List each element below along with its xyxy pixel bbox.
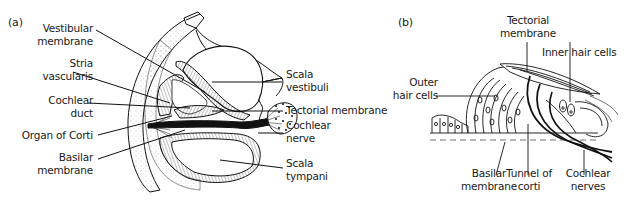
label-tectorial-membrane-a: Tectorial membrane [286,104,387,117]
organ-of-corti-drawing [430,42,618,175]
label-scala-tympani: Scala tympani [286,157,328,183]
label-cochlear-nerves: Cochlear nerves [560,167,616,193]
label-scala-vestibuli: Scala vestibuli [286,68,329,94]
label-stria-vascularis: Stria vascularis [20,57,93,83]
panel-a-tag: (a) [8,16,23,29]
cochlea-figure: (a) Vestibular membrane Stria vascularis… [0,0,627,202]
label-inner-hair-cells: Inner hair cells [542,46,617,59]
label-organ-of-corti: Organ of Corti [0,129,93,142]
label-tectorial-membrane-b: Tectorial membrane [492,14,564,40]
label-vestibular-membrane: Vestibular membrane [30,22,93,48]
label-cochlear-nerve: Cochlear nerve [286,119,331,145]
label-cochlear-duct: Cochlear duct [20,94,93,120]
label-basilar-membrane: Basilar membrane [20,151,93,177]
panel-b-tag: (b) [398,16,413,29]
label-tunnel-of-corti: Tunnel of corti [500,167,558,193]
label-outer-hair-cells: Outer hair cells [380,76,438,102]
